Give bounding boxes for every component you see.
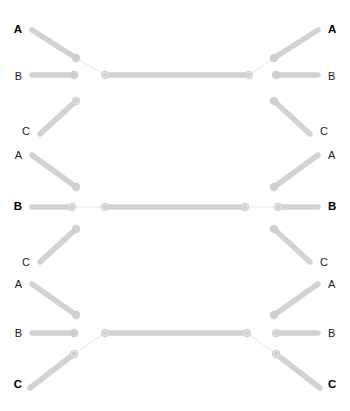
- graph-node[interactable]: [270, 225, 278, 233]
- diagram-canvas: ABCABCABC ABCABCABC: [0, 0, 350, 411]
- connector-line: [76, 58, 105, 75]
- trunk-group: [105, 75, 249, 333]
- tip-label-l-a1: A: [14, 24, 22, 36]
- branch-segment: [40, 229, 76, 262]
- branch-segment: [274, 30, 318, 58]
- tip-label-r-a1: A: [328, 24, 336, 36]
- graph-node[interactable]: [270, 311, 278, 319]
- tip-label-r-c1: C: [320, 126, 328, 137]
- branch-segment: [274, 284, 318, 315]
- graph-node[interactable]: [72, 225, 80, 233]
- graph-node[interactable]: [72, 183, 80, 191]
- graph-node[interactable]: [72, 311, 80, 319]
- branch-segment: [30, 354, 74, 388]
- tip-label-l-c3: C: [14, 379, 22, 391]
- graph-node[interactable]: [270, 54, 278, 62]
- tip-label-r-b1: B: [328, 71, 335, 82]
- connector-line: [247, 333, 276, 354]
- tip-label-l-c2: C: [22, 257, 30, 268]
- connector-line: [74, 333, 105, 354]
- tip-label-r-b2: B: [328, 201, 336, 213]
- tip-label-l-b3: B: [15, 328, 22, 339]
- branch-segment: [274, 229, 310, 262]
- tip-label-r-b3: B: [328, 328, 335, 339]
- branch-segment: [274, 155, 318, 187]
- branch-segment: [276, 354, 320, 388]
- tip-label-l-c1: C: [22, 126, 30, 137]
- graph-node[interactable]: [270, 183, 278, 191]
- tip-label-l-a2: A: [15, 150, 22, 161]
- branch-segment: [32, 30, 76, 58]
- tip-label-r-a2: A: [328, 150, 335, 161]
- branch-segment: [274, 101, 310, 134]
- tree-graph: [0, 0, 350, 411]
- graph-node[interactable]: [70, 329, 78, 337]
- graph-node[interactable]: [70, 71, 78, 79]
- connector-line: [249, 58, 274, 75]
- graph-node[interactable]: [270, 97, 278, 105]
- tip-label-l-a3: A: [15, 279, 22, 290]
- graph-node[interactable]: [72, 54, 80, 62]
- branch-segment: [40, 101, 76, 134]
- tip-label-l-b1: B: [15, 71, 22, 82]
- branch-segment: [32, 284, 76, 315]
- tip-label-r-c2: C: [320, 257, 328, 268]
- tip-label-r-a3: A: [328, 279, 335, 290]
- tip-label-r-c3: C: [328, 379, 336, 391]
- tip-label-l-b2: B: [14, 201, 22, 213]
- branch-segment: [32, 155, 76, 187]
- graph-node[interactable]: [272, 71, 280, 79]
